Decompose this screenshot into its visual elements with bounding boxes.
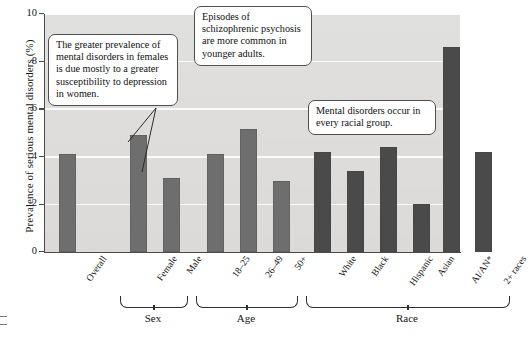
bar-hispanic — [380, 147, 397, 252]
bar-18-25 — [207, 154, 224, 252]
x-tick-label-black: Black — [369, 254, 390, 278]
bar-overall — [59, 154, 76, 252]
x-tick-label-female: Female — [155, 254, 179, 283]
y-tick-mark-2 — [39, 204, 44, 205]
bar-asian — [413, 204, 430, 252]
callout-sex-note: The greater prevalence of mental disorde… — [48, 34, 178, 106]
bar-white — [314, 152, 331, 252]
bar-ai-an- — [443, 47, 460, 252]
x-tick-label-26-49: 26–49 — [263, 254, 285, 279]
x-tick-label-50+: 50+ — [292, 254, 309, 272]
y-tick-mark-8 — [39, 61, 44, 62]
group-label-race: Race — [306, 312, 508, 324]
x-tick-label-overall: Overall — [84, 254, 109, 283]
x-tick-label-2+-races: 2+ races — [502, 254, 528, 286]
brace-sex — [120, 296, 188, 308]
y-tick-6: 6 — [15, 103, 37, 114]
y-tick-10: 10 — [15, 8, 37, 19]
y-axis-title: Prevalence of serious mental disorders (… — [23, 11, 35, 261]
x-tick-label-male: Male — [184, 254, 203, 276]
y-tick-8: 8 — [15, 56, 37, 67]
callout-race-note: Mental disorders occur in every racial g… — [308, 100, 436, 135]
x-axis-labels: OverallFemaleMale18–2526–4950+WhiteBlack… — [44, 252, 460, 298]
leader-line-sex — [120, 108, 180, 176]
bar-male — [163, 178, 180, 252]
bar-black — [347, 171, 364, 252]
y-tick-mark-4 — [39, 156, 44, 157]
group-label-sex: Sex — [120, 312, 186, 324]
y-tick-0: 0 — [15, 246, 37, 257]
callout-age-note: Episodes of schizophrenic psychosis are … — [194, 6, 312, 66]
x-tick-label-hispanic: Hispanic — [407, 254, 435, 287]
page-corner-mark-left-2 — [0, 324, 7, 325]
group-label-age: Age — [196, 312, 296, 324]
x-tick-label-asian: Asian — [435, 254, 456, 278]
x-tick-label-ai-an-: AI/AN* — [469, 254, 495, 285]
bar-50+ — [273, 181, 290, 252]
x-tick-label-white: White — [337, 254, 359, 279]
brace-race — [306, 296, 510, 308]
y-tick-mark-6 — [39, 108, 44, 109]
x-tick-label-18-25: 18–25 — [230, 254, 252, 279]
y-tick-2: 2 — [15, 198, 37, 209]
brace-age — [196, 296, 298, 308]
bar-2+-races — [475, 152, 492, 252]
y-tick-mark-10 — [39, 13, 44, 14]
page-corner-mark-left — [0, 316, 7, 317]
bar-26-49 — [240, 129, 257, 252]
y-tick-4: 4 — [15, 151, 37, 162]
x-axis-group-braces: Sex Age Race — [44, 296, 460, 342]
